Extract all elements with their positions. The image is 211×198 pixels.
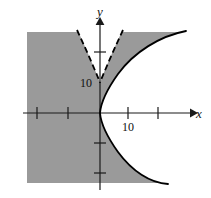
x-tick-label-10: 10: [122, 120, 134, 134]
y-axis-label: y: [95, 4, 103, 19]
x-axis-label: x: [195, 106, 202, 121]
shaded-solution-region: [0, 0, 211, 198]
y-tick-label-10: 10: [80, 76, 92, 90]
hyperbola-inequality-figure: x y 10 10: [0, 0, 211, 198]
